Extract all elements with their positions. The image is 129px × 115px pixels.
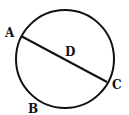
label-b: B <box>28 102 38 115</box>
diameter-ac <box>21 36 107 82</box>
label-d: D <box>65 45 75 59</box>
label-a: A <box>4 26 15 40</box>
circle-diagram: A D C B <box>0 0 129 115</box>
label-c: C <box>112 78 122 92</box>
